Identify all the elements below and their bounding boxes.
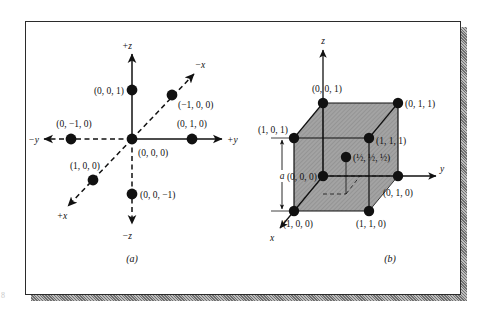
point-corner-100 bbox=[289, 206, 299, 216]
point-label-origin: (0, 0, 0) bbox=[138, 148, 168, 159]
point-minus-z bbox=[127, 189, 138, 200]
point-label-corner-010: (0, 1, 0) bbox=[383, 188, 413, 199]
unit-cell-diagram-b: a z y x (0, 0, 0) (0, 0, 1) (0, 1, 1) bbox=[258, 22, 462, 294]
point-minus-x bbox=[167, 90, 178, 101]
panel-b: a z y x (0, 0, 0) (0, 0, 1) (0, 1, 1) bbox=[258, 22, 462, 294]
point-corner-001 bbox=[318, 98, 328, 108]
page-number: 8 bbox=[1, 291, 5, 300]
panel-a: +z −z +y −y +x −x (0, 0, 0) (0, 0, 1) (0… bbox=[26, 22, 258, 294]
point-label-corner-110: (1, 1, 0) bbox=[356, 219, 386, 230]
point-corner-110 bbox=[364, 206, 374, 216]
point-plus-y bbox=[187, 134, 198, 145]
axis-label-plus-y: +y bbox=[227, 135, 238, 145]
point-origin bbox=[127, 134, 138, 145]
axis-label-z: z bbox=[320, 36, 325, 46]
point-label-minus-y: (0, −1, 0) bbox=[56, 119, 91, 130]
point-label-minus-z: (0, 0, −1) bbox=[140, 190, 175, 201]
axis-label-y: y bbox=[439, 164, 445, 174]
panel-b-caption: (b) bbox=[370, 253, 410, 264]
point-corner-111 bbox=[364, 133, 374, 143]
point-label-corner-101: (1, 0, 1) bbox=[258, 125, 288, 136]
point-label-plus-x: (1, 0, 0) bbox=[70, 161, 100, 172]
point-plus-x bbox=[88, 175, 99, 186]
point-corner-000 bbox=[318, 171, 328, 181]
point-label-plus-z: (0, 0, 1) bbox=[94, 86, 124, 97]
point-label-corner-100: (1, 0, 0) bbox=[283, 219, 313, 230]
axis-label-minus-z: −z bbox=[122, 231, 132, 241]
point-body-center bbox=[341, 152, 351, 162]
point-minus-y bbox=[66, 134, 77, 145]
point-label-corner-011: (0, 1, 1) bbox=[405, 99, 435, 110]
axis-label-plus-z: +z bbox=[122, 41, 132, 51]
point-corner-010 bbox=[393, 171, 403, 181]
point-label-corner-111: (1, 1, 1) bbox=[376, 136, 406, 147]
point-plus-z bbox=[127, 85, 138, 96]
point-corner-101 bbox=[289, 133, 299, 143]
dimension-label-a: a bbox=[280, 171, 285, 181]
point-label-minus-x: (−1, 0, 0) bbox=[178, 100, 213, 111]
axis-label-minus-x: −x bbox=[195, 60, 206, 70]
axis-label-plus-x: +x bbox=[57, 211, 68, 221]
figure-root: 8 bbox=[0, 0, 495, 327]
point-corner-011 bbox=[393, 98, 403, 108]
point-label-body-center: (½, ½, ½) bbox=[353, 153, 390, 164]
point-label-plus-y: (0, 1, 0) bbox=[177, 119, 207, 130]
point-label-corner-000: (0, 0, 0) bbox=[287, 172, 317, 183]
panel-a-caption: (a) bbox=[112, 253, 152, 264]
point-label-corner-001: (0, 0, 1) bbox=[312, 84, 342, 95]
figure-frame: +z −z +y −y +x −x (0, 0, 0) (0, 0, 1) (0… bbox=[25, 21, 461, 295]
axis-label-x: x bbox=[269, 233, 275, 243]
axis-plus-x bbox=[68, 139, 132, 206]
axis-label-minus-y: −y bbox=[28, 135, 39, 145]
